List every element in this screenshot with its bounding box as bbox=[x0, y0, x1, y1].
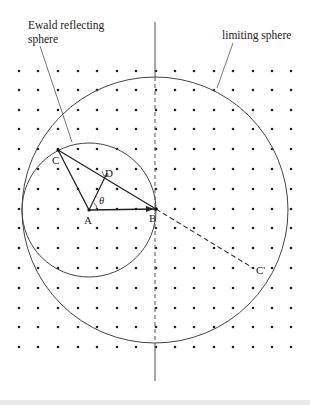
lattice-point bbox=[37, 227, 40, 230]
lattice-point bbox=[116, 188, 119, 191]
lattice-point bbox=[37, 208, 40, 211]
lattice-point bbox=[96, 326, 99, 329]
lattice-point bbox=[116, 326, 119, 329]
lattice-point bbox=[96, 128, 99, 131]
lattice-point bbox=[213, 267, 216, 270]
lattice-point bbox=[290, 346, 293, 349]
lattice-point bbox=[252, 346, 255, 349]
lattice-point bbox=[252, 188, 255, 191]
lattice-point bbox=[232, 70, 235, 73]
lattice-point bbox=[37, 109, 40, 112]
lattice-point bbox=[271, 287, 274, 290]
lattice-point bbox=[57, 287, 60, 290]
lattice-point bbox=[174, 148, 177, 151]
lattice-point bbox=[290, 307, 293, 310]
lattice-point bbox=[290, 148, 293, 151]
lattice-point bbox=[18, 247, 21, 250]
lattice-point bbox=[174, 227, 177, 230]
lattice-point bbox=[37, 89, 40, 92]
lattice-point bbox=[232, 307, 235, 310]
lattice-point bbox=[252, 109, 255, 112]
lattice-point bbox=[271, 307, 274, 310]
lattice-point bbox=[37, 307, 40, 310]
lattice-point bbox=[232, 89, 235, 92]
lattice-point bbox=[57, 247, 60, 250]
lattice-point bbox=[213, 128, 216, 131]
line-b-c-prime-dashed bbox=[156, 209, 253, 268]
lattice-point bbox=[290, 188, 293, 191]
lattice-point bbox=[174, 326, 177, 329]
lattice-point bbox=[193, 148, 196, 151]
lattice-point bbox=[18, 188, 21, 191]
ewald-diagram: Ewald reflecting sphere limiting sphere … bbox=[0, 0, 310, 405]
lattice-point bbox=[135, 227, 138, 230]
lattice-point bbox=[290, 287, 293, 290]
lattice-point bbox=[271, 208, 274, 211]
lattice-point bbox=[96, 168, 99, 171]
lattice-point bbox=[232, 326, 235, 329]
limiting-sphere-label: limiting sphere bbox=[222, 30, 291, 42]
lattice-point bbox=[174, 346, 177, 349]
lattice-point bbox=[252, 148, 255, 151]
lattice-point bbox=[37, 247, 40, 250]
lattice-point bbox=[96, 188, 99, 191]
lattice-point bbox=[116, 109, 119, 112]
lattice-point bbox=[37, 326, 40, 329]
point-b-marker bbox=[154, 207, 158, 211]
label-theta: θ bbox=[99, 196, 104, 207]
lattice-point bbox=[193, 307, 196, 310]
point-c-marker bbox=[56, 148, 59, 151]
lattice-point bbox=[57, 208, 60, 211]
lattice-point bbox=[116, 267, 119, 270]
lattice-point bbox=[57, 326, 60, 329]
lattice-point bbox=[77, 70, 80, 73]
lattice-point bbox=[77, 89, 80, 92]
lattice-point bbox=[213, 247, 216, 250]
lattice-point bbox=[252, 227, 255, 230]
lattice-point bbox=[77, 247, 80, 250]
lattice-point bbox=[18, 208, 21, 211]
lattice-point bbox=[135, 287, 138, 290]
lattice-point bbox=[18, 307, 21, 310]
lattice-point bbox=[232, 208, 235, 211]
lattice-point bbox=[57, 128, 60, 131]
lattice-point bbox=[232, 287, 235, 290]
lattice-point bbox=[18, 287, 21, 290]
lattice-point bbox=[213, 188, 216, 191]
lattice-point bbox=[252, 168, 255, 171]
lattice-point bbox=[77, 128, 80, 131]
lattice-point bbox=[116, 89, 119, 92]
lattice-point bbox=[271, 188, 274, 191]
lattice-point bbox=[271, 168, 274, 171]
lattice-point bbox=[213, 346, 216, 349]
lattice-point bbox=[77, 346, 80, 349]
lattice-point bbox=[213, 287, 216, 290]
lattice-point bbox=[213, 326, 216, 329]
lattice-point bbox=[271, 326, 274, 329]
lattice-point bbox=[155, 109, 158, 112]
lattice-point bbox=[290, 267, 293, 270]
lattice-point bbox=[193, 128, 196, 131]
lattice-point bbox=[252, 247, 255, 250]
lattice-point bbox=[96, 346, 99, 349]
ewald-label-line1: Ewald reflecting bbox=[28, 20, 104, 32]
lattice-point bbox=[174, 188, 177, 191]
lattice-point bbox=[96, 148, 99, 151]
lattice-point bbox=[174, 247, 177, 250]
lattice-point bbox=[193, 70, 196, 73]
lattice-point bbox=[96, 70, 99, 73]
lattice-point bbox=[77, 267, 80, 270]
lattice-point bbox=[193, 346, 196, 349]
lattice-point bbox=[135, 247, 138, 250]
lattice-point bbox=[18, 227, 21, 230]
lattice-point bbox=[213, 168, 216, 171]
lattice-point bbox=[57, 307, 60, 310]
lattice-point bbox=[37, 287, 40, 290]
lattice-point bbox=[77, 326, 80, 329]
lattice-point bbox=[213, 70, 216, 73]
lattice-point bbox=[174, 307, 177, 310]
lattice-point bbox=[96, 287, 99, 290]
lattice-point bbox=[37, 188, 40, 191]
lattice-point bbox=[116, 346, 119, 349]
lattice-point bbox=[252, 326, 255, 329]
